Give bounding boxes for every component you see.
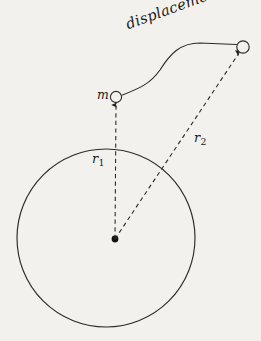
radius-1-label: r1 (92, 152, 104, 167)
radius-1-label-base: r (92, 151, 98, 166)
displacement-path-curve (123, 43, 237, 95)
radius-2-label-subscript: 2 (201, 136, 207, 147)
radius-1-label-subscript: 1 (99, 157, 105, 168)
mass-label: m (97, 89, 109, 102)
radius-vector-1-line (115, 105, 116, 239)
initial-position-marker (110, 91, 121, 102)
central-body-circle (17, 149, 195, 327)
physics-diagram-figure: displacement m r1 r2 (0, 0, 261, 341)
radius-2-label-base: r (194, 130, 200, 145)
radius-vector-2-line (115, 53, 239, 239)
final-position-marker (237, 41, 249, 53)
diagram-canvas (0, 0, 261, 341)
radius-2-label: r2 (194, 131, 206, 146)
